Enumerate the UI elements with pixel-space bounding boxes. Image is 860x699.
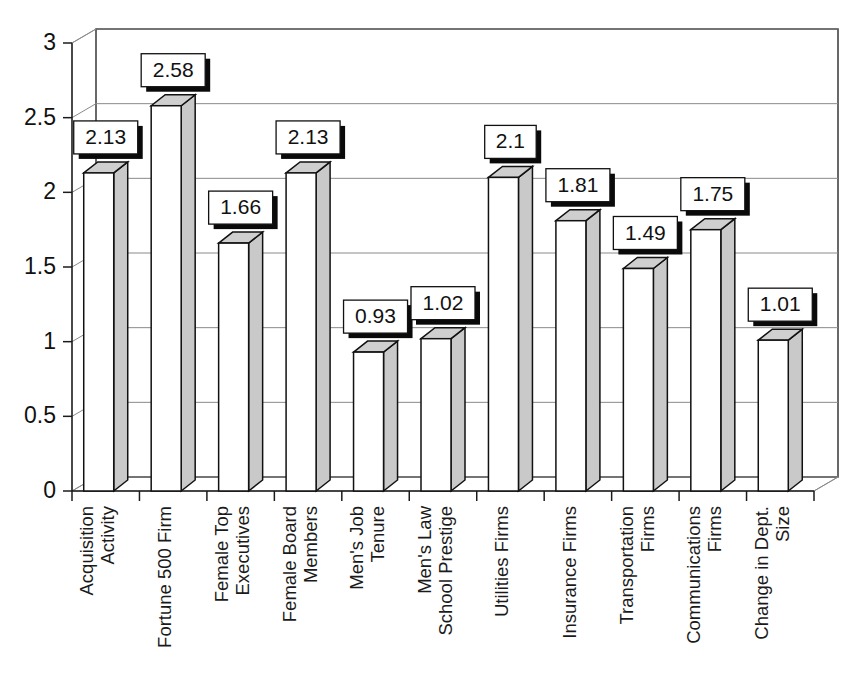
category-label: Utilities Firms <box>491 506 512 617</box>
data-label: 1.66 <box>209 191 278 229</box>
data-label: 1.01 <box>748 288 817 326</box>
category-label: Men's JobTenure <box>346 506 388 590</box>
y-axis-tick-label: 1.5 <box>24 253 56 279</box>
category-label: Female TopExecutives <box>211 506 253 602</box>
data-label: 2.13 <box>276 121 345 159</box>
category-label: Insurance Firms <box>559 506 580 639</box>
category-label-line: Utilities Firms <box>491 506 512 617</box>
bar-column <box>219 232 263 491</box>
data-label-value: 1.02 <box>423 291 464 314</box>
bar-column <box>691 219 735 491</box>
category-label: Fortune 500 Firm <box>154 506 175 648</box>
data-label-value: 2.13 <box>85 125 126 148</box>
category-label-line: Female Board <box>279 506 300 622</box>
category-label: TransportationFirms <box>616 506 658 625</box>
data-label-value: 1.75 <box>692 182 733 205</box>
category-label-line: Men's Law <box>414 505 435 593</box>
category-label: Female BoardMembers <box>279 506 321 622</box>
data-label: 2.13 <box>74 121 143 159</box>
category-label-line: Insurance Firms <box>559 506 580 639</box>
data-label-value: 2.13 <box>288 125 329 148</box>
bar-column <box>488 166 532 491</box>
data-label: 2.1 <box>485 125 542 163</box>
x-axis-ticks <box>72 491 814 501</box>
data-label-value: 2.1 <box>496 129 525 152</box>
data-label: 2.58 <box>141 54 210 92</box>
y-axis-tick-label: 3 <box>43 29 56 55</box>
category-label: Change in Dept.Size <box>751 506 793 640</box>
category-label: AcquisitionActivity <box>76 505 118 595</box>
chart-canvas: 00.511.522.53 2.132.581.662.130.931.022.… <box>0 0 860 699</box>
x-axis-category-labels: AcquisitionActivityFortune 500 FirmFemal… <box>76 505 793 648</box>
data-label-value: 0.93 <box>355 304 396 327</box>
y-axis-tick-label: 2.5 <box>24 104 56 130</box>
data-label: 1.02 <box>411 287 480 325</box>
bar-chart-figure: 00.511.522.53 2.132.581.662.130.931.022.… <box>0 0 860 699</box>
y-axis-tick-label: 0.5 <box>24 402 56 428</box>
category-label-line: Men's Job <box>346 506 367 590</box>
category-label-line: Executives <box>232 506 253 595</box>
category-label: CommunicationsFirms <box>683 506 725 644</box>
category-label-line: Tenure <box>367 506 388 563</box>
category-label-line: Change in Dept. <box>751 506 772 640</box>
category-label-line: School Prestige <box>435 506 456 636</box>
category-label-line: Acquisition <box>76 506 97 595</box>
data-label: 0.93 <box>344 300 413 338</box>
gridline-depth-connector <box>72 104 96 118</box>
bar-column <box>84 162 128 491</box>
data-label: 1.81 <box>546 169 615 207</box>
data-label-value: 1.01 <box>760 292 801 315</box>
category-label-line: Size <box>772 506 793 542</box>
bar-column <box>758 329 802 491</box>
data-label-value: 1.49 <box>625 221 666 244</box>
data-label-value: 2.58 <box>153 58 194 81</box>
data-label-value: 1.66 <box>220 195 261 218</box>
category-label-line: Female Top <box>211 506 232 602</box>
category-label: Men's LawSchool Prestige <box>414 505 456 635</box>
bar-column <box>623 257 667 491</box>
bar-column <box>354 341 398 491</box>
y-axis-tick-label: 1 <box>43 328 56 354</box>
category-label-line: Transportation <box>616 506 637 625</box>
y-axis-tick-label: 2 <box>43 178 56 204</box>
category-label-line: Firms <box>704 506 725 552</box>
data-label-value: 1.81 <box>557 173 598 196</box>
category-label-line: Communications <box>683 506 704 644</box>
bar-column <box>556 210 600 491</box>
category-label-line: Fortune 500 Firm <box>154 506 175 648</box>
category-label-line: Firms <box>637 506 658 552</box>
data-label: 1.49 <box>613 216 682 254</box>
bar-column <box>286 162 330 491</box>
bar-column <box>151 95 195 491</box>
category-label-line: Activity <box>97 505 118 564</box>
data-label: 1.75 <box>681 178 750 216</box>
category-label-line: Members <box>300 506 321 583</box>
y-axis-tick-label: 0 <box>43 477 56 503</box>
bar-column <box>421 328 465 491</box>
